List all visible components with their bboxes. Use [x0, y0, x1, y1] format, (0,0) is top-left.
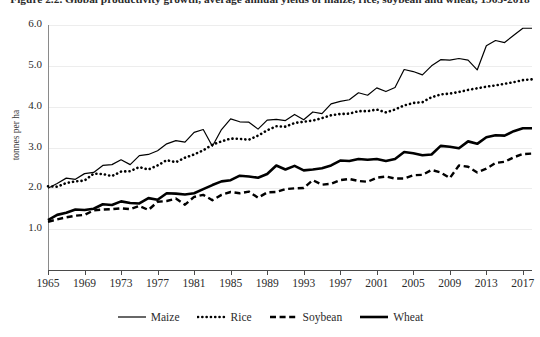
- legend-item-soybean[interactable]: Soybean: [269, 311, 343, 323]
- legend-label: Soybean: [303, 311, 343, 323]
- series-line-rice: [48, 79, 532, 186]
- legend-swatch-dashed-icon: [269, 312, 299, 322]
- legend-swatch-solid-thick-icon: [359, 312, 389, 322]
- legend-swatch-dotted-icon: [197, 312, 227, 322]
- legend-label: Wheat: [393, 311, 423, 323]
- series-plot-area: [0, 0, 540, 337]
- chart-figure: Figure 2.2. Global productivity growth, …: [0, 0, 540, 337]
- series-line-soybean: [48, 154, 532, 222]
- legend-label: Maize: [151, 311, 180, 323]
- legend-label: Rice: [231, 311, 252, 323]
- chart-legend: MaizeRiceSoybeanWheat: [0, 305, 540, 329]
- legend-item-rice[interactable]: Rice: [197, 311, 252, 323]
- legend-item-maize[interactable]: Maize: [117, 311, 180, 323]
- series-line-wheat: [48, 128, 532, 220]
- legend-swatch-solid-thin-icon: [117, 312, 147, 322]
- legend-item-wheat[interactable]: Wheat: [359, 311, 423, 323]
